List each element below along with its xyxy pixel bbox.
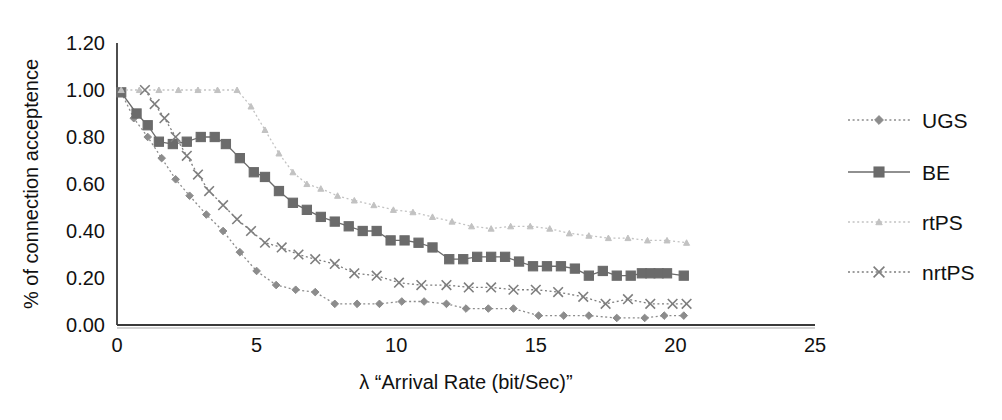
data-point-marker [376, 300, 384, 308]
data-point-marker [221, 139, 230, 148]
legend-label-text: nrtPS [922, 261, 975, 284]
data-point-marker [219, 227, 227, 235]
data-point-marker [584, 271, 593, 280]
legend-label-text: UGS [922, 109, 968, 132]
data-point-marker [277, 243, 287, 253]
x-tick-label: 0 [111, 334, 122, 356]
data-point-marker [612, 271, 621, 280]
data-point-marker [335, 193, 341, 199]
data-point-marker [182, 151, 192, 161]
series-line [121, 92, 684, 275]
y-tick-label: 0.60 [66, 173, 105, 195]
x-axis-title-text: λ “Arrival Rate (bit/Sec)” [359, 371, 572, 393]
legend-item-rtps[interactable]: rtPS [848, 211, 963, 234]
data-point-marker [350, 269, 360, 279]
data-point-marker [560, 312, 568, 320]
data-point-marker [262, 127, 268, 133]
connection-acceptance-line-chart: 0.000.200.400.600.801.001.200510152025% … [0, 0, 1002, 420]
data-point-marker [510, 305, 518, 313]
data-point-marker [682, 299, 692, 309]
data-point-marker [487, 252, 496, 261]
x-tick-label: 15 [525, 334, 547, 356]
y-tick-label: 1.20 [66, 32, 105, 54]
x-axis-tick-labels: 0510152025 [111, 334, 826, 356]
data-point-marker [556, 262, 565, 271]
data-point-marker [514, 257, 523, 266]
data-point-marker [234, 87, 240, 93]
data-point-marker [508, 223, 514, 229]
data-point-marker [637, 269, 646, 278]
data-point-marker [500, 252, 509, 261]
x-tick-label: 25 [804, 334, 826, 356]
legend-item-ugs[interactable]: UGS [848, 109, 968, 132]
data-point-marker [625, 235, 631, 241]
data-point-marker [394, 278, 404, 288]
data-point-marker [386, 236, 395, 245]
data-point-marker [420, 298, 428, 306]
data-point-marker [623, 294, 633, 304]
data-point-marker [232, 214, 242, 224]
data-point-marker [486, 283, 496, 293]
data-point-marker [311, 288, 319, 296]
series-nrtps [140, 85, 691, 308]
data-point-marker [654, 269, 663, 278]
x-tick-label: 5 [251, 334, 262, 356]
data-point-marker [644, 237, 650, 243]
data-point-marker [330, 259, 340, 269]
data-point-marker [310, 254, 320, 264]
data-point-marker [400, 236, 409, 245]
y-tick-label: 0.40 [66, 220, 105, 242]
series-be [117, 88, 689, 281]
legend-item-nrtps[interactable]: nrtPS [848, 261, 975, 284]
data-point-marker [193, 170, 203, 180]
legend: UGSBErtPSnrtPS [848, 109, 975, 284]
data-point-marker [132, 109, 141, 118]
data-point-marker [204, 186, 214, 196]
data-point-marker [288, 198, 297, 207]
data-point-marker [601, 299, 611, 309]
series-layer [117, 85, 692, 322]
data-point-marker [662, 269, 671, 278]
data-point-marker [598, 266, 607, 275]
data-point-marker [398, 298, 406, 306]
data-point-marker [473, 252, 482, 261]
series-line [121, 90, 686, 243]
data-point-marker [218, 200, 228, 210]
data-point-marker [158, 154, 166, 162]
data-point-marker [196, 132, 205, 141]
data-point-marker [570, 264, 579, 273]
data-point-marker [566, 230, 572, 236]
data-point-marker [175, 87, 181, 93]
data-point-marker [535, 312, 543, 320]
data-point-marker [414, 238, 423, 247]
data-point-marker [292, 286, 300, 294]
data-point-marker [429, 214, 435, 220]
legend-marker-cross-icon [874, 267, 885, 278]
data-point-marker [235, 154, 244, 163]
y-axis-title-text: % of connection acceptence [20, 59, 42, 309]
data-point-marker [646, 269, 655, 278]
y-tick-label: 1.00 [66, 79, 105, 101]
data-point-marker [249, 168, 258, 177]
data-point-marker [641, 314, 649, 322]
data-point-marker [260, 172, 269, 181]
data-point-marker [679, 271, 688, 280]
data-point-marker [318, 186, 324, 192]
data-point-marker [154, 137, 163, 146]
data-point-marker [330, 217, 339, 226]
data-point-marker [150, 99, 160, 109]
data-point-marker [260, 238, 270, 248]
y-tick-label: 0.20 [66, 267, 105, 289]
x-tick-label: 20 [664, 334, 686, 356]
data-point-marker [331, 300, 339, 308]
y-tick-label: 0.00 [66, 314, 105, 336]
data-point-marker [578, 292, 588, 302]
data-point-marker [547, 226, 553, 232]
legend-item-be[interactable]: BE [848, 161, 950, 184]
legend-marker-diamond-icon [875, 116, 884, 125]
data-point-marker [459, 255, 468, 264]
data-point-marker [660, 312, 668, 320]
data-point-marker [443, 300, 451, 308]
data-point-marker [680, 312, 688, 320]
y-tick-label: 0.80 [66, 126, 105, 148]
